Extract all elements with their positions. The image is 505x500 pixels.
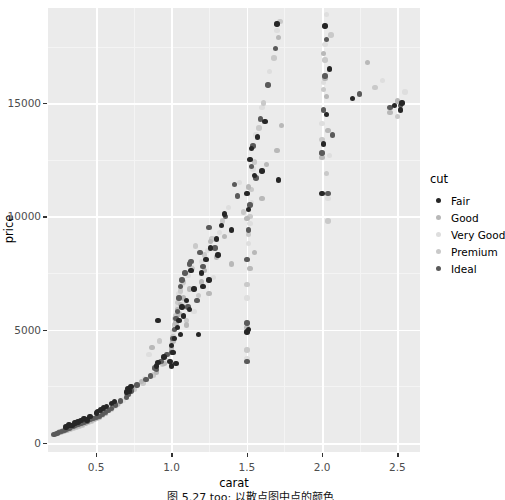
- data-point: [324, 37, 329, 42]
- data-point: [322, 42, 327, 47]
- legend: cut FairGoodVery GoodPremiumIdeal: [430, 172, 500, 277]
- y-axis-tick-mark: [43, 216, 47, 217]
- data-point: [324, 12, 329, 17]
- legend-key-swatch: [430, 260, 447, 277]
- y-axis-tick-label: 15000: [8, 97, 41, 109]
- data-point: [246, 207, 251, 212]
- data-point: [255, 134, 260, 139]
- data-point: [252, 250, 257, 255]
- data-point: [208, 239, 213, 244]
- data-point: [325, 218, 330, 223]
- x-axis-tick-mark: [247, 453, 248, 457]
- data-point: [219, 223, 224, 228]
- legend-item-premium[interactable]: Premium: [430, 243, 500, 260]
- data-point: [324, 94, 329, 99]
- data-point: [128, 384, 133, 389]
- data-point: [173, 361, 178, 366]
- data-point: [247, 221, 252, 226]
- data-point: [372, 85, 377, 90]
- gridline-minor-vertical: [360, 8, 361, 452]
- x-axis-tick-label: 1.0: [163, 461, 180, 473]
- data-point: [237, 180, 242, 185]
- legend-key-swatch: [430, 192, 447, 209]
- data-point: [176, 318, 181, 323]
- data-point: [244, 257, 249, 262]
- data-point: [365, 60, 370, 65]
- data-point: [194, 298, 199, 303]
- x-axis-tick-label: 1.5: [238, 461, 255, 473]
- gridline-minor-horizontal: [48, 273, 420, 274]
- data-point: [232, 182, 237, 187]
- data-point: [274, 148, 279, 153]
- legend-dot-icon: [436, 232, 441, 237]
- legend-item-label: Fair: [447, 195, 470, 207]
- data-point: [215, 252, 220, 257]
- data-point: [387, 110, 392, 115]
- data-point: [273, 46, 278, 51]
- data-point: [244, 216, 249, 221]
- data-point: [87, 414, 92, 419]
- data-point: [179, 277, 184, 282]
- data-point: [184, 322, 189, 327]
- gridline-minor-horizontal: [48, 386, 420, 387]
- data-point: [322, 57, 327, 62]
- gridline-major-horizontal: [48, 216, 420, 218]
- gridline-minor-vertical: [284, 8, 285, 452]
- data-point: [172, 336, 177, 341]
- y-axis-tick-mark: [43, 330, 47, 331]
- legend-key-swatch: [430, 209, 447, 226]
- data-point: [155, 360, 160, 365]
- data-point: [321, 87, 326, 92]
- data-point: [181, 313, 186, 318]
- legend-item-fair[interactable]: Fair: [430, 192, 500, 209]
- data-point: [357, 91, 362, 96]
- data-point: [118, 398, 123, 403]
- x-axis-tick-label: 0.5: [88, 461, 105, 473]
- legend-items: FairGoodVery GoodPremiumIdeal: [430, 192, 500, 277]
- legend-item-ideal[interactable]: Ideal: [430, 260, 500, 277]
- data-point: [206, 225, 211, 230]
- data-point: [212, 245, 217, 250]
- data-point: [191, 286, 196, 291]
- data-point: [178, 288, 183, 293]
- legend-item-label: Good: [447, 212, 479, 224]
- data-point: [399, 100, 404, 105]
- data-point: [264, 162, 269, 167]
- data-point: [322, 23, 327, 28]
- legend-item-good[interactable]: Good: [430, 209, 500, 226]
- y-axis-tick-label: 0: [34, 437, 41, 449]
- data-point: [328, 32, 333, 37]
- data-point: [157, 338, 162, 343]
- data-point: [178, 332, 183, 337]
- data-point: [229, 227, 234, 232]
- data-point: [146, 352, 151, 357]
- data-point: [244, 191, 249, 196]
- data-point: [319, 121, 324, 126]
- data-point: [380, 78, 385, 83]
- data-point: [350, 96, 355, 101]
- data-point: [200, 284, 205, 289]
- data-point: [279, 123, 284, 128]
- data-point: [265, 82, 270, 87]
- plot-panel: [48, 8, 420, 452]
- legend-dot-icon: [436, 249, 441, 254]
- x-axis-tick-mark: [96, 453, 97, 457]
- data-point: [327, 153, 332, 158]
- data-point: [324, 112, 329, 117]
- data-point: [196, 332, 201, 337]
- data-point: [325, 196, 330, 201]
- legend-item-very-good[interactable]: Very Good: [430, 226, 500, 243]
- data-point: [324, 171, 329, 176]
- data-point: [267, 69, 272, 74]
- x-axis-tick-mark: [322, 453, 323, 457]
- data-point: [182, 270, 187, 275]
- data-point: [259, 196, 264, 201]
- gridline-major-horizontal: [48, 330, 420, 332]
- data-point: [134, 382, 139, 387]
- data-point: [155, 318, 160, 323]
- data-point: [148, 373, 153, 378]
- gridline-major-vertical: [171, 8, 173, 452]
- data-point: [274, 21, 279, 26]
- y-axis-tick-mark: [43, 103, 47, 104]
